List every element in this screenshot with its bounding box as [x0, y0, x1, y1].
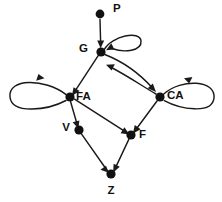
node-z[interactable]: Z	[106, 169, 115, 196]
node-z-dot[interactable]	[106, 169, 115, 178]
directed-graph-figure: P G FA CA V F	[0, 0, 222, 202]
node-f-label: F	[139, 128, 146, 140]
node-g-label: G	[79, 42, 88, 54]
node-p[interactable]: P	[96, 2, 121, 18]
edge-g-to-ca-curve	[105, 55, 153, 89]
graph-canvas: P G FA CA V F	[0, 0, 222, 202]
node-p-label: P	[113, 2, 121, 14]
node-layer: P G FA CA V F	[62, 2, 183, 196]
arrowhead-fa-self-loop-icon	[36, 74, 44, 81]
arrowhead-p-to-g-icon	[97, 41, 104, 49]
node-fa[interactable]: FA	[65, 90, 90, 102]
node-fa-dot[interactable]	[65, 92, 74, 101]
arrowhead-g-self-loop-icon	[106, 43, 114, 50]
node-f-dot[interactable]	[126, 130, 135, 139]
edge-fa-self-loop	[10, 74, 66, 109]
edge-ca-to-f-line	[135, 101, 157, 131]
edge-f-to-z-line	[115, 139, 129, 169]
edge-g-to-fa-line	[74, 56, 98, 93]
edge-fa-to-v	[71, 102, 80, 129]
edge-f-to-z	[113, 139, 129, 172]
node-ca-label: CA	[167, 89, 184, 101]
node-g-dot[interactable]	[96, 47, 105, 56]
edge-v-to-z	[82, 134, 109, 173]
node-z-label: Z	[107, 184, 114, 196]
edge-g-to-ca	[105, 55, 156, 93]
arrowhead-ca-to-g-icon	[106, 64, 115, 70]
node-ca-dot[interactable]	[155, 92, 164, 101]
node-fa-label: FA	[76, 90, 91, 102]
node-v[interactable]: V	[62, 121, 83, 135]
node-v-dot[interactable]	[74, 125, 83, 134]
edge-fa-self-loop-curve	[10, 82, 66, 109]
node-p-dot[interactable]	[96, 10, 105, 19]
node-v-label: V	[62, 121, 70, 133]
edge-v-to-z-line	[82, 134, 107, 170]
edge-g-self-loop	[105, 35, 142, 51]
edge-p-to-g	[97, 20, 104, 49]
node-ca[interactable]: CA	[155, 89, 183, 102]
